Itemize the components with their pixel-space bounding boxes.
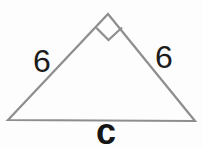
diagram-canvas: 6 6 c	[0, 0, 203, 148]
right-angle-marker	[97, 28, 123, 41]
base-label: c	[96, 111, 116, 148]
right-triangle-figure: 6 6 c	[0, 0, 203, 148]
left-side-label: 6	[33, 43, 51, 79]
right-side-label: 6	[155, 39, 173, 75]
